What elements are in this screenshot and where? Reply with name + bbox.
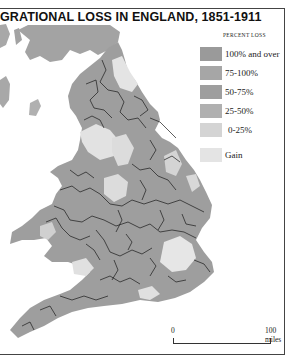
ireland-north bbox=[0, 24, 10, 48]
legend-item-0-25: 0-25% bbox=[200, 120, 286, 139]
isle-of-man bbox=[29, 99, 41, 116]
legend-label: 0-25% bbox=[225, 125, 252, 135]
scale-bar: 0 100 miles bbox=[170, 326, 292, 350]
legend-swatch bbox=[200, 47, 222, 61]
legend-item-50-75: 50-75% bbox=[200, 82, 286, 101]
legend-item-25-50: 25-50% bbox=[200, 101, 286, 120]
legend-swatch bbox=[200, 85, 222, 99]
ireland-landmass bbox=[0, 76, 10, 108]
legend-swatch bbox=[200, 104, 222, 118]
legend-item-gain: Gain bbox=[200, 145, 286, 164]
legend-swatch bbox=[200, 123, 222, 137]
legend-swatch bbox=[200, 148, 222, 162]
legend-label: Gain bbox=[225, 150, 243, 160]
legend: PERCENT LOSS 100% and over 75-100% 50-75… bbox=[220, 32, 286, 164]
scale-bar-line bbox=[173, 338, 271, 344]
legend-heading: PERCENT LOSS bbox=[223, 32, 286, 38]
legend-label: 100% and over bbox=[225, 49, 279, 59]
england-migration-map bbox=[0, 22, 220, 342]
legend-swatch bbox=[200, 66, 222, 80]
legend-label: 50-75% bbox=[225, 87, 254, 97]
scale-start-label: 0 bbox=[171, 326, 175, 335]
legend-item-100-and-over: 100% and over bbox=[200, 44, 286, 63]
legend-item-75-100: 75-100% bbox=[200, 63, 286, 82]
legend-label: 75-100% bbox=[225, 68, 258, 78]
legend-label: 25-50% bbox=[225, 106, 254, 116]
